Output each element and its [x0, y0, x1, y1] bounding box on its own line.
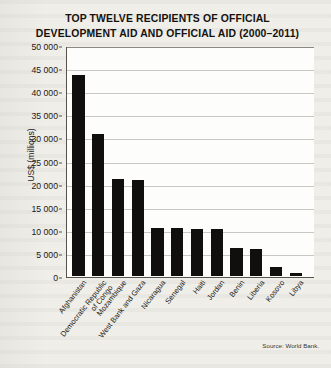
bar	[290, 273, 302, 276]
x-axis-category-label: Kosovo	[264, 279, 286, 304]
y-axis-tick-mark	[59, 185, 62, 186]
bar	[191, 229, 203, 276]
y-axis-tick-mark	[59, 47, 62, 48]
y-axis-tick-label: 45 000	[31, 65, 58, 75]
y-axis-tick-mark	[59, 139, 62, 140]
y-axis-tick-label: 30 000	[31, 134, 58, 144]
chart-title-line-1: TOP TWELVE RECIPIENTS OF OFFICIAL	[14, 12, 321, 27]
y-axis-tick-mark	[59, 116, 62, 117]
y-axis-tick-mark	[59, 162, 62, 163]
bar	[250, 249, 262, 276]
y-axis-tick-mark	[59, 208, 62, 209]
x-axis-category-label: Haiti	[191, 279, 207, 296]
y-axis-tick-label: 10 000	[31, 227, 58, 237]
y-axis-tick-label: 40 000	[31, 88, 58, 98]
bar	[270, 267, 282, 276]
chart-title-line-2: DEVELOPMENT AID AND OFFICIAL AID (2000–2…	[14, 27, 321, 42]
x-axis-category-label: Benin	[228, 279, 246, 299]
bar	[230, 248, 242, 276]
y-axis-tick-label: 50 000	[31, 42, 58, 52]
y-axis-tick-label: 0	[53, 273, 58, 283]
bar	[211, 229, 223, 276]
bar	[92, 134, 104, 276]
plot-area	[66, 47, 314, 278]
y-axis-tick-label: 15 000	[31, 204, 58, 214]
y-axis-tick-mark	[59, 231, 62, 232]
y-axis-tick-label: 5 000	[36, 250, 58, 260]
y-axis-tick-label: 35 000	[31, 111, 58, 121]
chart-title: TOP TWELVE RECIPIENTS OF OFFICIAL DEVELO…	[14, 12, 321, 41]
y-axis-tick-mark	[59, 278, 62, 279]
y-axis-tick-label: 20 000	[31, 181, 58, 191]
x-axis-category-label: Libya	[288, 279, 306, 298]
x-axis-category-label: Jordan	[206, 279, 227, 302]
bar	[72, 75, 84, 276]
y-axis-tick-mark	[59, 70, 62, 71]
bar	[112, 179, 124, 276]
source-note: Source: World Bank.	[262, 342, 319, 349]
bar-series	[68, 47, 314, 276]
bar	[132, 180, 144, 276]
y-axis-tick-mark	[59, 93, 62, 94]
bar	[151, 228, 163, 277]
plot-wrapper	[66, 47, 314, 278]
y-axis-tick-labels: 05 00010 00015 00020 00025 00030 00035 0…	[0, 47, 62, 278]
y-axis-tick-label: 25 000	[31, 158, 58, 168]
y-axis-tick-mark	[59, 254, 62, 255]
chart-figure: TOP TWELVE RECIPIENTS OF OFFICIAL DEVELO…	[0, 0, 331, 368]
bar	[171, 228, 183, 276]
